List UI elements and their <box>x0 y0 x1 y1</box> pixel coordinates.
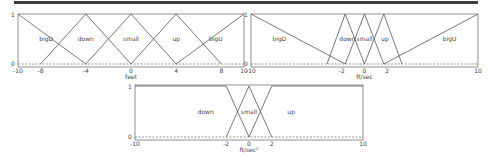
x-tick-label: -4 <box>83 67 89 74</box>
series-label-down: down <box>339 35 355 42</box>
membership-curve-up <box>249 86 363 137</box>
x-tick-label: 10 <box>359 140 367 147</box>
x-tick-label: -10 <box>130 140 140 147</box>
y-tick-label: 1 <box>128 83 132 90</box>
x-tick-label: 8 <box>219 67 223 74</box>
series-label-bigD: bigD <box>39 35 53 43</box>
membership-curve-bigU <box>384 14 478 64</box>
x-tick-label: -10 <box>246 67 256 74</box>
x-axis-label: ft/sec² <box>240 146 259 153</box>
x-tick-label: 4 <box>174 67 178 74</box>
x-tick-label: -8 <box>38 67 44 74</box>
x-axis-label: feet <box>125 73 137 80</box>
membership-curve-down <box>135 86 249 137</box>
series-label-small: small <box>357 35 373 42</box>
y-tick-label: 1 <box>244 11 248 18</box>
membership-chart-1: 10-10-8-404810feetbigDdownsmallupbigU <box>11 11 248 80</box>
x-tick-label: -2 <box>223 140 229 147</box>
membership-chart-2: 10-10-20210ft/secbigDdownsmallupbigU <box>244 11 482 80</box>
membership-chart-3: 10-10-20210ft/sec²downsmallup <box>128 83 367 153</box>
series-label-bigU: bigU <box>443 35 457 43</box>
y-tick-label: 0 <box>11 60 15 67</box>
series-label-up: up <box>172 35 180 43</box>
series-label-bigD: bigD <box>272 35 286 43</box>
series-label-down: down <box>78 35 94 42</box>
x-tick-label: 2 <box>385 67 389 74</box>
y-tick-label: 0 <box>128 133 132 140</box>
series-label-bigU: bigU <box>209 35 223 43</box>
series-label-small: small <box>123 35 139 42</box>
x-tick-label: 10 <box>474 67 482 74</box>
series-label-up: up <box>381 35 389 43</box>
membership-charts: 10-10-8-404810feetbigDdownsmallupbigU10-… <box>0 0 492 164</box>
x-tick-label: -10 <box>13 67 23 74</box>
membership-curve-bigD <box>251 14 345 64</box>
x-tick-label: -2 <box>339 67 345 74</box>
series-label-down: down <box>198 108 214 115</box>
y-tick-label: 0 <box>244 60 248 67</box>
series-label-small: small <box>241 108 257 115</box>
y-tick-label: 1 <box>11 11 15 18</box>
series-label-up: up <box>287 108 295 116</box>
x-axis-label: ft/sec <box>356 73 373 80</box>
x-tick-label: 2 <box>270 140 274 147</box>
